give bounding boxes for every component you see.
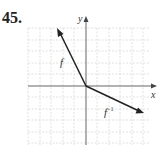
f-arrowhead-icon [57,28,64,37]
grid [28,28,150,145]
y-axis-arrow-icon [84,16,89,22]
f-inverse-superscript: −1 [107,106,113,112]
x-axis-arrow-icon [151,84,157,89]
curve-f [60,33,86,86]
y-axis-label: y [77,13,83,24]
axes [28,20,154,145]
x-axis-label: x [150,89,156,100]
f-label: f [60,56,65,68]
graph: x y f f−1 [0,0,166,153]
